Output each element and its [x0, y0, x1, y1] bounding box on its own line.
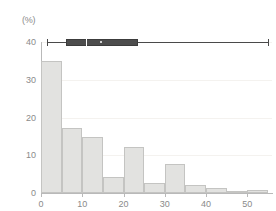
x-tick-mark	[124, 193, 125, 197]
x-tick-mark	[41, 193, 42, 197]
bar	[227, 191, 248, 193]
bar	[124, 147, 145, 193]
x-tick-label: 20	[118, 199, 128, 209]
x-tick-label: 50	[242, 199, 252, 209]
y-tick-label: 20	[26, 113, 41, 123]
x-tick-mark	[206, 193, 207, 197]
histogram-chart: (%) 010203040 01020304050	[0, 0, 276, 211]
bar	[144, 183, 165, 193]
bar	[185, 185, 206, 193]
bar	[62, 128, 83, 193]
bar	[41, 61, 62, 193]
y-axis-unit-label: (%)	[22, 15, 35, 25]
bar	[165, 164, 186, 193]
bar	[82, 137, 103, 193]
bar	[206, 188, 227, 193]
x-tick-label: 10	[77, 199, 87, 209]
x-tick-label: 30	[160, 199, 170, 209]
x-tick-label: 40	[201, 199, 211, 209]
bar	[247, 190, 268, 193]
x-tick-mark	[165, 193, 166, 197]
y-tick-label: 30	[26, 75, 41, 85]
x-tick-mark	[247, 193, 248, 197]
bar	[103, 177, 124, 193]
y-tick-label: 0	[31, 188, 41, 198]
plot-area	[41, 42, 272, 193]
x-axis-line	[41, 193, 273, 194]
x-tick-mark	[82, 193, 83, 197]
y-tick-label: 40	[26, 37, 41, 47]
x-tick-label: 0	[38, 199, 43, 209]
y-tick-label: 10	[26, 150, 41, 160]
